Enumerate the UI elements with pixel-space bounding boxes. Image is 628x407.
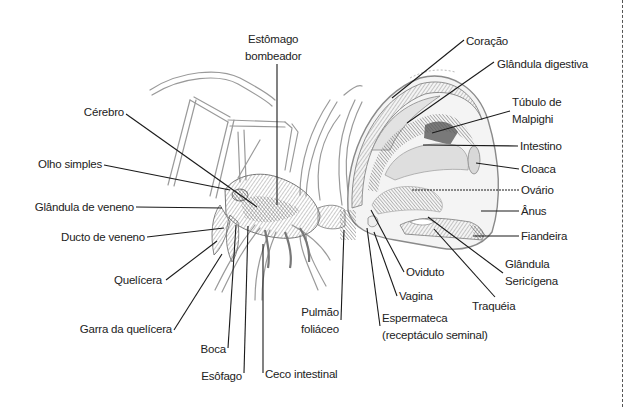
label-oviduto: Oviduto <box>406 264 444 281</box>
leader-cerebro <box>126 114 257 207</box>
label-espermateca: Espermateca (receptáculo seminal) <box>382 310 488 344</box>
label-tubulo-de-malpighi: Túbulo de Malpighi <box>512 94 561 128</box>
abdomen <box>340 70 498 249</box>
label-ceco-intestinal: Ceco intestinal <box>265 366 337 383</box>
label-pulmao-foliaceo: Pulmão foliáceo <box>297 304 339 338</box>
label-garra-da-quelicera: Garra da quelícera <box>60 321 172 338</box>
label-ovario: Ovário <box>521 182 554 199</box>
label-vagina: Vagina <box>399 288 433 305</box>
label-anus: Ânus <box>521 203 546 220</box>
label-cerebro: Cérebro <box>60 104 124 121</box>
leader-olho-simples <box>104 165 230 190</box>
label-intestino: Intestino <box>520 138 562 155</box>
leader-garra-da-quelicera <box>174 254 222 330</box>
leader-glandula-de-veneno <box>136 207 222 208</box>
leader-vagina <box>374 232 397 296</box>
label-olho-simples: Olho simples <box>20 156 102 173</box>
spider-anatomy-diagram: Estômago bombeador Coração Glândula dige… <box>0 0 628 407</box>
page-cut-border <box>622 0 623 407</box>
label-fiandeira: Fiandeira <box>521 228 567 245</box>
leader-pulmao-foliaceo <box>341 230 344 320</box>
label-estomago-bombeador: Estômago bombeador <box>245 31 301 65</box>
label-quelicera: Quelícera <box>100 272 162 289</box>
label-glandula-sericigena: Glândula Sericígena <box>505 256 558 290</box>
label-esofago: Esôfago <box>190 368 242 385</box>
label-boca: Boca <box>180 341 226 358</box>
label-glandula-de-veneno: Glândula de veneno <box>14 199 134 216</box>
label-coracao: Coração <box>466 33 508 50</box>
label-cloaca: Cloaca <box>521 161 556 178</box>
label-ducto-de-veneno: Ducto de veneno <box>40 229 145 246</box>
label-glandula-digestiva: Glândula digestiva <box>497 56 588 73</box>
